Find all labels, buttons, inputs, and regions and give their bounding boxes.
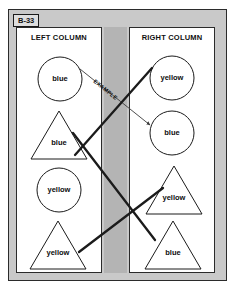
right-triangle-yellow[interactable]: yellow [146,166,202,214]
right-circle-blue[interactable]: blue [150,111,194,155]
right-triangle-blue[interactable]: blue [145,221,201,269]
shape-label: yellow [161,73,184,82]
shape-label: blue [164,128,179,137]
left-circle-yellow[interactable]: yellow [37,168,81,212]
shape-label: blue [165,248,180,257]
shape-label: blue [52,74,67,83]
shape-label: yellow [47,248,70,257]
shapes-layer: blueblueyellowyellow yellowblueyellowblu… [0,0,236,291]
right-column-shapes: yellowblueyellowblue [145,56,202,269]
left-triangle-yellow[interactable]: yellow [30,221,86,269]
shape-label: blue [51,138,66,147]
shape-label: yellow [48,185,71,194]
shape-label: yellow [163,193,186,202]
left-circle-blue[interactable]: blue [38,57,82,101]
worksheet-page: B-33 LEFT COLUMN RIGHT COLUMN blueblueye… [0,0,236,291]
left-triangle-blue[interactable]: blue [31,111,87,159]
right-circle-yellow[interactable]: yellow [150,56,194,100]
worksheet-id-tag: B-33 [13,14,39,27]
left-column-shapes: blueblueyellowyellow [30,57,87,269]
